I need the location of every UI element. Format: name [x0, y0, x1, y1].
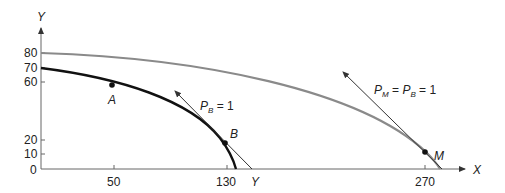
outer-frontier-curve: [41, 53, 440, 169]
inner-frontier-curve: [41, 68, 236, 169]
price-line-b-label: PB = 1: [200, 100, 234, 115]
x-tick-50: 50: [107, 176, 120, 188]
x-intercept-y-label: Y: [251, 176, 259, 188]
y-tick-80: 80: [24, 47, 37, 59]
price-line-m-label: PM = PB = 1: [374, 84, 436, 99]
y-tick-70: 70: [24, 62, 37, 74]
point-b-label: B: [230, 128, 238, 140]
y-tick-20: 20: [24, 134, 37, 146]
point-b: [222, 140, 228, 146]
y-tick-0: 0: [30, 164, 37, 176]
point-a: [109, 82, 115, 88]
x-ticks: [114, 165, 425, 169]
point-m: [422, 149, 428, 155]
x-tick-130: 130: [216, 176, 236, 188]
point-a-label: A: [108, 94, 116, 106]
y-axis-label: Y: [37, 11, 45, 23]
y-tick-10: 10: [24, 148, 37, 160]
x-tick-270: 270: [415, 176, 435, 188]
y-tick-60: 60: [24, 76, 37, 88]
x-axis-label: X: [473, 164, 481, 176]
point-m-label: M: [434, 150, 444, 162]
